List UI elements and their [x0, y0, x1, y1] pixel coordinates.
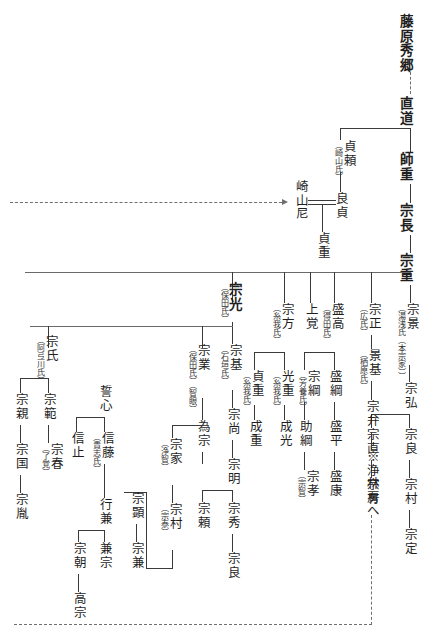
node-label: 師重 — [398, 152, 412, 181]
node-label: 成重 — [248, 420, 261, 447]
link-munemasa-kagemoto — [371, 335, 372, 349]
node-narishige: 成重 — [248, 420, 261, 447]
link-morosige-munenaga — [410, 184, 411, 203]
node-sadashige: 貞重 — [316, 232, 329, 259]
node-moritaka: 盛高 （得田氏） — [322, 303, 342, 344]
node-label: 宗基 — [227, 344, 240, 371]
link-bar-to-moritaka — [334, 272, 335, 303]
node-label: 宗光 — [227, 282, 241, 311]
link-munekata-mitsushige — [284, 352, 285, 370]
node-muneshige: 宗重 — [398, 253, 412, 282]
node-munesada: 宗定 — [403, 528, 416, 555]
link-munetsuna-suketsuna — [304, 402, 305, 420]
node-label: 宗頼 — [196, 502, 209, 529]
link-muneshige-munekage — [410, 285, 411, 303]
node-munehiro: 宗弘 — [403, 382, 416, 409]
sibling-bar-muneshige-children — [25, 272, 411, 273]
link-tamemune-down — [202, 452, 203, 464]
node-label: 藤原秀郷 — [398, 14, 412, 72]
node-label: 宗顕 — [130, 492, 143, 519]
link-bar-to-muneyori — [202, 490, 203, 502]
link-dashed-hidesato-naomichi — [410, 72, 411, 94]
node-label: 宗兼 — [130, 542, 143, 569]
node-sadayori: 貞頼 （崎山氏） — [334, 140, 354, 181]
link-bar-to-jokaku — [310, 272, 311, 303]
node-label: 宗重 — [398, 253, 412, 282]
node-label: 宗春 — [48, 443, 61, 470]
node-label: 盛平 — [328, 420, 341, 447]
node-label: 宗業 — [195, 344, 208, 371]
node-munemura-honke: 宗村 — [403, 478, 416, 505]
node-label: ※浄林房へ — [365, 450, 378, 518]
node-suketsuna: 助綱 — [298, 420, 311, 447]
link-munenari-tamemune — [202, 398, 203, 420]
link-munenori-muneharu — [48, 425, 49, 443]
link-munehiro-muneyoshi — [409, 414, 410, 428]
link-muneaki2-munekane — [136, 524, 137, 542]
link-kagemoto-muneben — [371, 381, 372, 400]
link-bar-to-munemasa — [371, 272, 372, 303]
node-munekata: 宗方 （糸我氏） — [272, 303, 292, 344]
node-takamune: 高宗 — [72, 592, 85, 619]
node-label: 成光 — [278, 420, 291, 447]
node-label: 貞重 — [316, 232, 329, 259]
sibling-bar-munekata-children — [254, 352, 285, 353]
node-muneben: 宗弁 — [365, 400, 378, 427]
link-muneyoshi-munemura — [409, 460, 410, 478]
node-muneharu: 宗春 （了覚） — [41, 443, 61, 476]
node-moritsuna: 盛綱 — [328, 370, 341, 397]
node-moriyasu: 盛康 — [328, 470, 341, 497]
node-munenari: 宗業 （保田氏）（智眼） — [188, 344, 208, 413]
link-yukikane-kanemune — [104, 530, 105, 542]
node-label: 宗景 — [404, 303, 417, 330]
link-munehisa-muneaki — [232, 440, 233, 458]
node-label: 良貞 — [334, 192, 347, 219]
link-munehide-muneyoshi2 — [232, 534, 233, 552]
link-bar-to-sadayori — [340, 128, 341, 140]
node-sakiyama-ama: 崎山尼 — [294, 180, 307, 221]
node-morihira: 盛平 — [328, 420, 341, 447]
node-label: 宗方 — [279, 303, 292, 330]
link-seishin-nobufuji — [104, 417, 105, 432]
node-munemoto: 宗基 （石垣氏） — [220, 344, 240, 385]
node-label: 宗氏 — [43, 335, 56, 362]
dashed-route-joorinbo-vertical — [371, 515, 372, 625]
node-munetane: 宗胤 — [14, 493, 27, 520]
node-label: 信止 — [70, 432, 83, 459]
node-narimitsu: 成光 — [278, 420, 291, 447]
node-munemasa: 宗正 （広氏） — [359, 303, 379, 336]
node-label: 宗国 — [14, 443, 27, 470]
node-label: 光重 — [279, 370, 292, 397]
node-label: 宗長 — [398, 203, 412, 232]
node-naomichi: 直道 — [398, 96, 412, 125]
node-label: 宗村 — [403, 478, 416, 505]
node-label: 景基 — [366, 349, 379, 376]
node-muneaki: 宗明 — [226, 458, 239, 485]
node-nobutome: 信止 — [70, 432, 83, 459]
node-sadashige2: 貞重 （糸我氏） — [242, 370, 262, 411]
link-muneie-munemura2 — [172, 485, 173, 503]
sibling-bar-naomichi-children — [340, 128, 411, 129]
node-label: 宗弁 — [365, 400, 378, 427]
node-munehisa: 宗尚 — [226, 408, 239, 435]
node-label: 宗親 — [14, 393, 27, 420]
node-mitsushige: 光重 （糸我氏） — [272, 370, 292, 411]
link-moritsuna-morihira — [334, 402, 335, 420]
loop-link-munemura2-down — [172, 550, 173, 568]
link-bar-to-munetsuna — [304, 352, 305, 370]
sibling-bar-muneaki-children — [202, 490, 233, 491]
link-bar-to-muneie — [172, 425, 173, 438]
node-muneyoshi: 宗良 — [403, 428, 416, 455]
node-label: 高宗 — [72, 592, 85, 619]
link-munekuni-munetane — [20, 475, 21, 493]
link-morihira-moriyasu — [334, 452, 335, 470]
node-label: 宗良 — [403, 428, 416, 455]
node-morosige: 師重 — [398, 152, 412, 181]
node-label: 貞頼 — [341, 140, 354, 167]
node-label: 宗家 — [167, 438, 180, 465]
link-bar-to-munekata — [284, 272, 285, 303]
sibling-bar-seishin-children — [76, 417, 105, 418]
link-bar-to-munetomo — [78, 530, 79, 542]
node-munemitsu: 宗光 （保田氏） — [220, 282, 241, 323]
link-marriage-sadashige — [322, 204, 323, 232]
